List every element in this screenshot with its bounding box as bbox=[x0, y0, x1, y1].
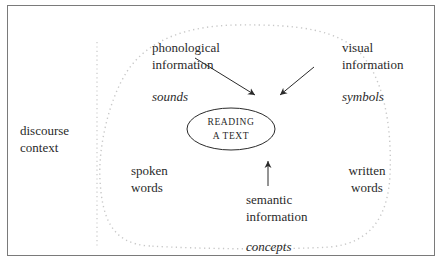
visual-line: visual bbox=[342, 39, 403, 56]
a-text-line: A TEXT bbox=[191, 129, 271, 143]
discourse-context-label: discourse context bbox=[20, 122, 69, 156]
phonological-information-label: phonological information bbox=[152, 39, 220, 73]
reading-a-text-label: READING A TEXT bbox=[191, 115, 271, 143]
discourse-line: discourse bbox=[20, 122, 69, 139]
words-line: words bbox=[131, 179, 168, 196]
spoken-words-label: spoken words bbox=[131, 162, 168, 196]
semantic-line: semantic bbox=[246, 191, 307, 208]
information-line: information bbox=[342, 56, 403, 73]
semantic-information-label: semantic information bbox=[246, 191, 307, 225]
information-line: information bbox=[246, 208, 307, 225]
spoken-line: spoken bbox=[131, 162, 168, 179]
written-words-label: written words bbox=[342, 162, 392, 196]
visual-information-label: visual information bbox=[342, 39, 403, 73]
concepts-label: concepts bbox=[246, 238, 291, 255]
information-line: information bbox=[152, 56, 220, 73]
symbols-label: symbols bbox=[342, 88, 384, 105]
written-line: written bbox=[342, 162, 392, 179]
context-line: context bbox=[20, 139, 69, 156]
visual-arrow bbox=[280, 67, 314, 95]
sounds-label: sounds bbox=[152, 88, 188, 105]
phonological-line: phonological bbox=[152, 39, 220, 56]
reading-line: READING bbox=[191, 115, 271, 129]
words-line: words bbox=[342, 179, 392, 196]
